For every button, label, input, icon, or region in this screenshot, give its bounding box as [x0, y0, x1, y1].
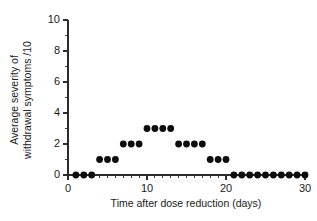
data-point — [80, 172, 87, 179]
data-point — [96, 156, 103, 163]
x-axis-title: Time after dose reduction (days) — [111, 197, 262, 209]
data-point — [254, 172, 261, 179]
x-tick-label: 10 — [141, 182, 153, 194]
data-point — [191, 141, 198, 148]
data-point — [270, 172, 277, 179]
data-point — [231, 172, 238, 179]
data-point — [88, 172, 95, 179]
data-point — [246, 172, 253, 179]
data-point — [128, 141, 135, 148]
data-point — [238, 172, 245, 179]
data-point — [215, 156, 222, 163]
data-point — [73, 172, 80, 179]
y-tick-label: 0 — [54, 168, 60, 180]
scatter-plot-canvas: 0246810 0102030 Time after dose reductio… — [0, 0, 317, 221]
x-tick-label: 30 — [299, 182, 311, 194]
data-point — [294, 172, 301, 179]
y-tick-label: 8 — [54, 44, 60, 56]
data-point — [152, 125, 159, 132]
data-point — [262, 172, 269, 179]
data-point — [144, 125, 151, 132]
y-tick-label: 2 — [54, 137, 60, 149]
y-tick-label: 6 — [54, 75, 60, 87]
y-axis-title-line-2: withdrawal symptoms /10 — [21, 41, 33, 160]
y-tick-label: 4 — [54, 106, 60, 118]
data-point — [223, 156, 230, 163]
data-point — [167, 125, 174, 132]
data-point — [183, 141, 190, 148]
data-point — [159, 125, 166, 132]
data-point — [104, 156, 111, 163]
data-point — [120, 141, 127, 148]
figure-background — [0, 0, 317, 221]
data-point — [302, 172, 309, 179]
y-tick-label: 10 — [48, 13, 60, 25]
chart-figure: 0246810 0102030 Time after dose reductio… — [0, 0, 317, 221]
data-point — [136, 141, 143, 148]
y-axis-title-line-1: Average severity of — [8, 55, 20, 145]
x-tick-label: 0 — [65, 182, 71, 194]
data-point — [112, 156, 119, 163]
data-point — [278, 172, 285, 179]
data-point — [207, 156, 214, 163]
x-tick-label: 20 — [220, 182, 232, 194]
data-point — [199, 141, 206, 148]
data-point — [286, 172, 293, 179]
data-point — [175, 141, 182, 148]
